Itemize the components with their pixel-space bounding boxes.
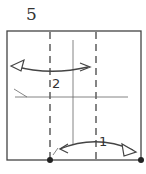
reference-dot-icon <box>47 157 53 163</box>
fold-label-1: 1 <box>99 134 107 149</box>
crease-tick <box>14 89 27 97</box>
reference-dot-icon <box>138 157 144 163</box>
fold-label-2: 2 <box>52 76 60 91</box>
paper-square <box>7 31 141 160</box>
crease-tick <box>53 148 58 155</box>
fold-arrow-icon <box>11 60 24 71</box>
fold-arrow-icon <box>80 63 90 71</box>
fold-arrow-icon <box>122 144 136 156</box>
diagram-canvas <box>0 0 146 174</box>
fold-arrow-icon <box>60 144 68 153</box>
fold-arrow-2-path <box>14 66 88 71</box>
origami-step-diagram: 5 2 1 <box>0 0 146 174</box>
